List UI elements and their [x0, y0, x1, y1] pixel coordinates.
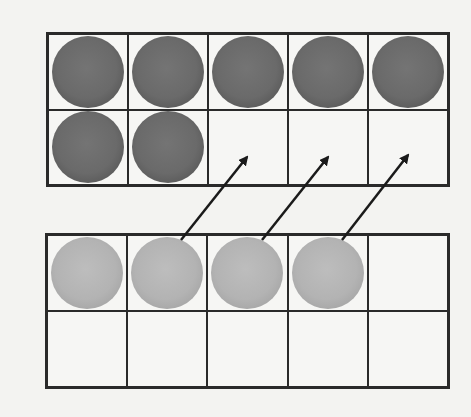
arrow-icon: [181, 157, 247, 240]
arrows-layer: [0, 0, 471, 417]
arrow-icon: [342, 155, 408, 240]
arrow-icon: [262, 157, 328, 240]
